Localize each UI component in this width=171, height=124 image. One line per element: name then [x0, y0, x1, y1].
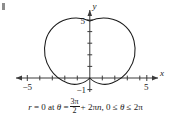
figure-caption: r = 0 at θ =3π2+ 2πn, 0 ≤ θ ≤ 2π: [0, 98, 171, 115]
x-axis-label: x: [159, 68, 164, 78]
caption-upper-bound: 2π: [134, 102, 143, 112]
caption-equals: =: [63, 102, 68, 112]
cardioid-plot-svg: x y −5 5 5 −1: [0, 0, 171, 98]
caption-equals-zero: = 0 at: [34, 102, 55, 112]
caption-theta-symbol: θ: [57, 102, 61, 112]
caption-le-1: ≤: [113, 102, 118, 112]
y-axis-arrow-up: [88, 10, 93, 16]
caption-le-2: ≤: [127, 102, 132, 112]
x-axis-arrow-right: [152, 76, 158, 81]
caption-theta-symbol-2: θ: [120, 102, 124, 112]
polar-graph-figure: x y −5 5 5 −1 r = 0 at θ =3π2+ 2πn, 0 ≤ …: [0, 0, 171, 124]
x-axis-arrow-left: [16, 76, 22, 81]
x-tick-label-5: 5: [144, 82, 149, 92]
caption-zero: 0: [106, 102, 111, 112]
y-tick-label-5: 5: [81, 16, 86, 26]
x-tick-label-neg5: −5: [23, 82, 33, 92]
y-axis-label: y: [92, 1, 97, 11]
caption-plus-term: + 2π: [81, 102, 97, 112]
caption-comma: ,: [101, 102, 103, 112]
caption-fraction-denominator: 2: [70, 107, 80, 115]
caption-fraction: 3π2: [70, 98, 80, 115]
y-tick-label-neg1: −1: [77, 85, 87, 95]
caption-r-symbol: r: [28, 102, 32, 112]
